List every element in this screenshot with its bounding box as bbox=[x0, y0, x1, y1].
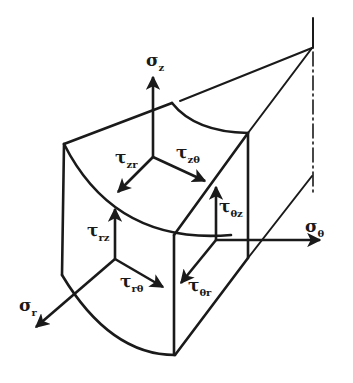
label-tau-zr: τzr bbox=[115, 147, 138, 170]
stress-element-diagram: σz τzr τzθ τrz τrθ σr τθz σθ τθr bbox=[0, 0, 353, 383]
diagram-svg: σz τzr τzθ τrz τrθ σr τθz σθ τθr bbox=[0, 0, 353, 383]
label-tau-ztheta: τzθ bbox=[176, 142, 200, 165]
element-outline bbox=[62, 18, 313, 355]
sigma-r-arrow bbox=[36, 259, 115, 327]
label-tau-rz: τrz bbox=[87, 220, 110, 243]
label-sigma-z: σz bbox=[146, 50, 165, 73]
label-sigma-theta: σθ bbox=[305, 216, 325, 239]
stress-arrows bbox=[36, 77, 320, 327]
label-tau-thetar: τθr bbox=[188, 275, 212, 298]
label-tau-thetaz: τθz bbox=[219, 196, 243, 219]
label-sigma-r: σr bbox=[19, 295, 38, 318]
